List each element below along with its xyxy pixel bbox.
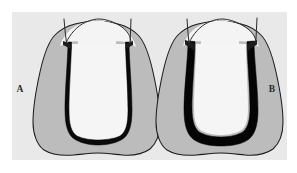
tooth-a-pulp-core xyxy=(67,44,128,142)
tooth-b-pulp-core xyxy=(194,44,248,135)
panel-label-b: B xyxy=(269,84,276,94)
tooth-diagram-b xyxy=(156,18,283,155)
figure-root: A B xyxy=(0,0,297,173)
figure-illustration: A B xyxy=(0,0,297,173)
panel-label-a: A xyxy=(17,84,24,94)
tooth-diagram-a xyxy=(33,19,160,155)
